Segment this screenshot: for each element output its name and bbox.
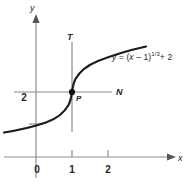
equation-lhs: y	[112, 52, 116, 62]
equation-equals: =	[119, 52, 124, 62]
equation-minus-one: – 1	[136, 52, 148, 62]
equation-variable: x	[129, 52, 133, 62]
point-p-label: P	[76, 94, 82, 103]
y-tick-label-2: 2	[21, 92, 27, 103]
tangent-label: T	[67, 32, 74, 42]
figure-container: x y 0 1 2 2 T N P y = (x – 1)1/3+ 2	[0, 0, 196, 189]
x-tick-label-2: 2	[105, 164, 111, 175]
y-axis-label: y	[29, 3, 35, 13]
x-axis-arrowhead	[167, 153, 176, 160]
point-p-marker	[69, 89, 75, 95]
y-axis-arrowhead	[32, 14, 39, 23]
normal-label: N	[116, 87, 123, 97]
equation-label: y = (x – 1)1/3+ 2	[112, 52, 172, 62]
x-tick-label-0: 0	[34, 164, 40, 175]
x-tick-label-1: 1	[69, 164, 75, 175]
graph-canvas: x y 0 1 2 2 T N P	[0, 0, 196, 189]
equation-exponent: 1/3	[151, 51, 160, 57]
x-axis-label: x	[177, 153, 183, 163]
equation-plus-two: + 2	[160, 52, 172, 62]
